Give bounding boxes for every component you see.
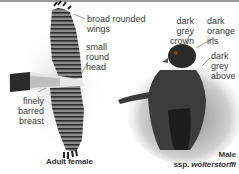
annotation-broad-rounded-wings: broad rounded wings xyxy=(87,14,146,34)
annotation-dark-orange-iris: dark orange iris xyxy=(207,16,235,46)
caption-male: Male ssp. wolterstorffi xyxy=(150,150,236,170)
caption-male-line2: ssp. wolterstorffi xyxy=(150,160,236,170)
caption-male-ssp-prefix: ssp. xyxy=(173,160,191,169)
annotation-dark-grey-crown: dark grey crown xyxy=(160,16,194,46)
caption-male-subspecies: wolterstorffi xyxy=(191,160,236,169)
annotation-dark-grey-above: dark grey above xyxy=(211,51,236,81)
annotation-small-round-head: small round head xyxy=(86,42,109,72)
annotation-finely-barred-breast: finely barred breast xyxy=(6,96,44,126)
caption-male-line1: Male xyxy=(150,150,236,160)
caption-adult-female: Adult female xyxy=(46,157,93,167)
